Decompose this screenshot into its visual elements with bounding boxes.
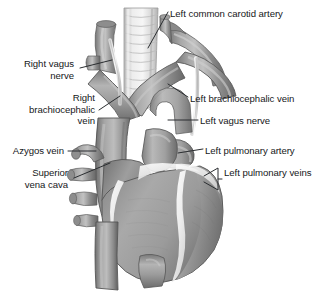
inferior-vena-cava (139, 254, 166, 288)
label-left-pulmonary-artery: Left pulmonary artery (205, 145, 295, 157)
descending-aorta (95, 222, 118, 290)
anatomy-figure: Left common carotid artery Right vagus n… (0, 0, 318, 292)
label-left-common-carotid-artery: Left common carotid artery (170, 8, 283, 20)
label-right-vagus-nerve: Right vagus nerve (0, 58, 74, 81)
label-left-vagus-nerve: Left vagus nerve (200, 115, 270, 127)
label-left-pulmonary-veins: Left pulmonary veins (224, 167, 312, 179)
label-azygos-vein: Azygos vein (0, 145, 64, 157)
label-left-brachiocephalic-vein: Left brachiocephalic vein (190, 93, 294, 105)
label-superior-vena-cava: Superior vena cava (0, 167, 68, 190)
label-right-brachiocephalic-vein: Right brachiocephalic vein (0, 92, 95, 127)
